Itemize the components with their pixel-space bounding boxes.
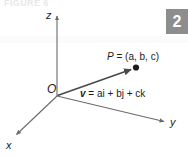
- vector-components: = ai + bj + ck: [86, 88, 146, 99]
- point-p-label: P = (a, b, c): [107, 52, 159, 62]
- vector-equation-label: v = ai + bj + ck: [80, 89, 145, 99]
- coordinate-axes-diagram: [0, 0, 188, 157]
- point-p-symbol: P: [107, 51, 114, 62]
- x-axis-line: [17, 96, 58, 135]
- z-axis-label: z: [46, 10, 52, 21]
- point-p-marker: [133, 64, 139, 70]
- figure-container: FIGURE 6 2 z y x O P = (a, b, c) v = ai …: [0, 0, 188, 157]
- point-p-coordinates: = (a, b, c): [114, 51, 159, 62]
- x-axis-label: x: [6, 140, 12, 151]
- y-axis-line: [57, 96, 164, 122]
- origin-label: O: [47, 83, 56, 95]
- y-axis-label: y: [170, 117, 176, 128]
